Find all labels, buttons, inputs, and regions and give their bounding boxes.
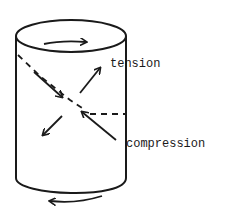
compression-arrow-upper-left-icon (34, 72, 62, 97)
diagram-svg (0, 0, 226, 216)
compression-label: compression (126, 138, 205, 150)
compression-arrow-lower-right-icon (82, 112, 116, 140)
torsion-cylinder-diagram: tension compression (0, 0, 226, 216)
tension-arrow-down-left-icon (43, 116, 62, 135)
tension-arrow-up-right-icon (80, 68, 100, 93)
cylinder-bottom-arc (16, 178, 126, 193)
bottom-rotation-arrow-icon (50, 196, 102, 202)
dashed-helix-line (18, 55, 82, 108)
cylinder-top-ellipse (16, 20, 126, 52)
tension-label: tension (110, 58, 160, 70)
top-rotation-arrow-icon (44, 41, 86, 44)
